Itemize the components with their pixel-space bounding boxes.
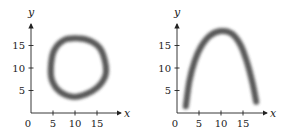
ring-chart: 0 5 10 15 5 10 15 y x xyxy=(0,0,145,137)
arch-curve xyxy=(186,31,256,106)
x-tick-label: 0 xyxy=(25,118,31,129)
x-tick-label: 10 xyxy=(215,118,228,129)
x-tick-label: 10 xyxy=(69,118,82,129)
x-tick-label: 0 xyxy=(172,118,178,129)
y-tick-label: 5 xyxy=(165,85,171,96)
x-tick-label: 15 xyxy=(91,118,104,129)
y-tick-label: 5 xyxy=(19,85,25,96)
y-axis-label: y xyxy=(173,6,181,19)
ring-curve xyxy=(51,38,107,97)
x-axis-label: x xyxy=(124,107,131,120)
x-tick-label: 5 xyxy=(50,118,56,129)
y-tick-label: 10 xyxy=(158,63,171,74)
x-tick-label: 15 xyxy=(237,118,250,129)
y-tick-label: 15 xyxy=(12,40,25,51)
y-axis-label: y xyxy=(27,6,35,19)
y-tick-label: 15 xyxy=(158,40,171,51)
x-axis-label: x xyxy=(270,107,277,120)
chart-panel-left: 0 5 10 15 5 10 15 y x xyxy=(0,0,145,137)
y-tick-label: 10 xyxy=(12,63,25,74)
chart-panel-right: 0 5 10 15 5 10 15 y x xyxy=(145,0,290,137)
x-tick-label: 5 xyxy=(196,118,202,129)
arch-chart: 0 5 10 15 5 10 15 y x xyxy=(145,0,290,137)
